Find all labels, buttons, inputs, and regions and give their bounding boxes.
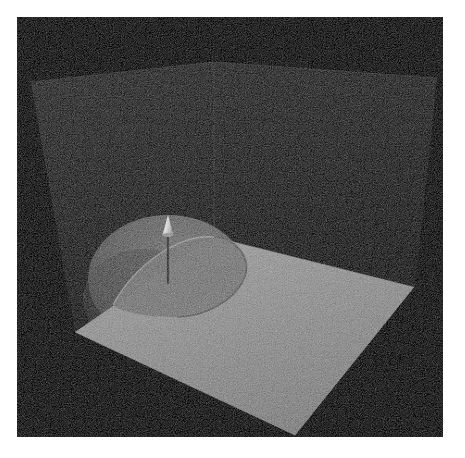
render-viewport (0, 0, 465, 458)
render-canvas[interactable] (17, 17, 443, 437)
scene-3d (17, 17, 443, 437)
arrow-head-base (163, 233, 174, 237)
